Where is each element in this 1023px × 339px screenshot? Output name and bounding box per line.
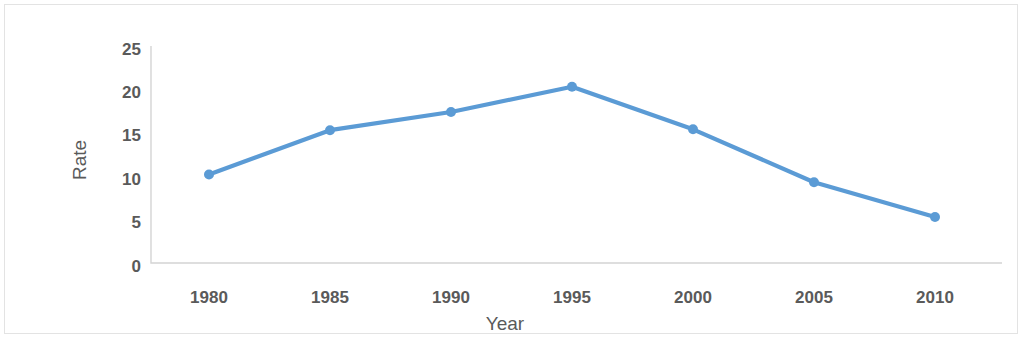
y-axis-tick-labels: 25 20 15 10 5 0 — [122, 40, 141, 276]
y-tick-label: 5 — [132, 213, 141, 232]
data-series-markers — [204, 82, 940, 222]
y-tick-label: 20 — [122, 83, 141, 102]
line-chart-figure: 25 20 15 10 5 0 1980 1985 1990 1995 2000… — [0, 0, 1023, 339]
data-point — [809, 177, 819, 187]
y-tick-label: 25 — [122, 40, 141, 59]
x-tick-label: 2005 — [795, 288, 833, 307]
x-tick-label: 1995 — [553, 288, 591, 307]
x-tick-label: 2010 — [916, 288, 954, 307]
data-point — [688, 124, 698, 134]
y-tick-label: 10 — [122, 170, 141, 189]
data-point — [567, 82, 577, 92]
y-axis-title: Rate — [69, 140, 90, 180]
data-point — [204, 169, 214, 179]
y-tick-label: 15 — [122, 126, 141, 145]
data-series-line — [209, 87, 935, 217]
y-tick-label: 0 — [132, 257, 141, 276]
x-tick-label: 2000 — [674, 288, 712, 307]
x-axis-title: Year — [486, 313, 525, 334]
axis-spines — [151, 46, 1002, 263]
plot-area: 25 20 15 10 5 0 1980 1985 1990 1995 2000… — [0, 0, 1023, 339]
data-point — [930, 212, 940, 222]
x-tick-label: 1990 — [432, 288, 470, 307]
x-tick-label: 1980 — [190, 288, 228, 307]
data-point — [325, 125, 335, 135]
x-axis-tick-labels: 1980 1985 1990 1995 2000 2005 2010 — [190, 288, 954, 307]
x-tick-label: 1985 — [311, 288, 349, 307]
data-point — [446, 107, 456, 117]
